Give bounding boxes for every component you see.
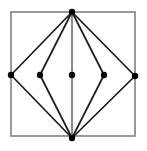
figure-container: Nested diamond graph inscribed in a squa… xyxy=(0,0,147,151)
graph-vertex-left: left outer vertex xyxy=(8,72,14,78)
graph-vertex-mid_left: left inner vertex xyxy=(37,72,43,78)
graph-diagram: top apexleft outer vertexleft inner vert… xyxy=(0,0,147,151)
graph-vertex-center: center vertex xyxy=(69,72,75,78)
graph-vertex-top: top apex xyxy=(69,9,75,15)
graph-vertex-bottom: bottom apex xyxy=(69,135,75,141)
graph-vertex-right: right outer vertex xyxy=(132,73,138,79)
graph-vertex-mid_right: right inner vertex xyxy=(101,72,107,78)
